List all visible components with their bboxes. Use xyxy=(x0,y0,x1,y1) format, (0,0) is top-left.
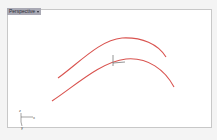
viewport-title-tab[interactable]: Perspective xyxy=(7,8,41,15)
chevron-down-icon xyxy=(37,11,39,13)
axis-widget-icon: z x y xyxy=(19,108,35,130)
axis-z-label: z xyxy=(19,108,21,113)
viewport-title: Perspective xyxy=(9,8,35,15)
axis-x-label: x xyxy=(33,115,35,120)
upper-curve[interactable] xyxy=(58,38,166,78)
viewport-scene[interactable]: z x y xyxy=(0,0,217,140)
axis-y-label: y xyxy=(21,125,23,130)
